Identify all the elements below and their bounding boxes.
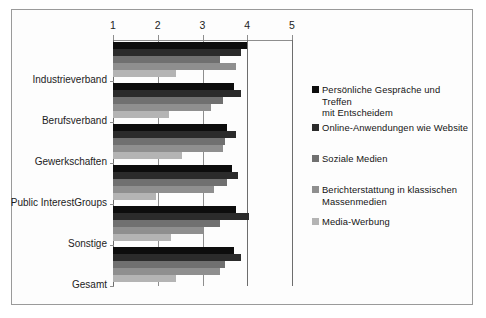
y-axis-tick-mark (110, 245, 114, 246)
bars-and-gridlines (113, 40, 292, 286)
bar (113, 247, 234, 254)
bar-group (113, 83, 292, 118)
y-axis-tick-mark (110, 122, 114, 123)
bar (113, 234, 171, 241)
legend-label: Online-Anwendungen wie Website (322, 122, 468, 134)
plot-area: 12345 (113, 19, 303, 286)
bar (113, 83, 234, 90)
x-axis-tick-label-4: 4 (244, 19, 250, 31)
y-axis-category-label: Industrieverband (33, 74, 108, 85)
bar (113, 63, 236, 70)
bar (113, 220, 220, 227)
bar (113, 56, 220, 63)
bar-group (113, 124, 292, 159)
bar (113, 165, 232, 172)
bar (113, 275, 176, 282)
y-axis-tick-mark (110, 204, 114, 205)
bar (113, 206, 236, 213)
legend-label: Soziale Medien (322, 153, 388, 165)
gridline-5 (292, 40, 293, 286)
legend-item[interactable]: Online-Anwendungen wie Website (312, 122, 468, 134)
legend-label: Persönliche Gespräche und Treffen mit En… (322, 84, 472, 119)
y-axis-category-label: Public InterestGroups (11, 197, 107, 208)
bar-group (113, 206, 292, 241)
bar (113, 138, 225, 145)
y-axis-category-label: Sonstige (68, 238, 107, 249)
x-axis-tick-label-1: 1 (110, 19, 116, 31)
y-axis-tick-mark (110, 286, 114, 287)
legend-label: Berichterstattung in klassischen Massenm… (322, 184, 457, 207)
legend-swatch-icon (312, 155, 319, 162)
bar-group (113, 247, 292, 282)
bar (113, 172, 238, 179)
bar (113, 186, 214, 193)
y-axis-category-label: Gesamt (72, 279, 107, 290)
bar (113, 70, 176, 77)
x-axis-tick-label-3: 3 (200, 19, 206, 31)
bar (113, 268, 220, 275)
legend-label: Media-Werbung (322, 216, 390, 228)
x-axis-tick-label-5: 5 (289, 19, 295, 31)
bar (113, 193, 156, 200)
bar (113, 49, 241, 56)
y-axis-category-label: Berufsverband (42, 115, 107, 126)
legend-item[interactable]: Persönliche Gespräche und Treffen mit En… (312, 84, 472, 119)
bar (113, 90, 241, 97)
bar (113, 152, 182, 159)
bar (113, 42, 247, 49)
legend-swatch-icon (312, 218, 319, 225)
legend-item[interactable]: Media-Werbung (312, 216, 390, 228)
chart-frame: 12345 IndustrieverbandBerufsverbandGewer… (11, 9, 473, 305)
y-axis-tick-mark (110, 81, 114, 82)
y-axis-tick-mark (110, 163, 114, 164)
bar-group (113, 165, 292, 200)
legend-swatch-icon (312, 186, 319, 193)
bar (113, 104, 211, 111)
bar (113, 145, 223, 152)
bar (113, 97, 223, 104)
y-axis-category-label: Gewerkschaften (35, 156, 107, 167)
legend-item[interactable]: Soziale Medien (312, 153, 388, 165)
bar (113, 179, 227, 186)
bar (113, 124, 227, 131)
bar (113, 213, 249, 220)
bar (113, 254, 241, 261)
legend-swatch-icon (312, 124, 319, 131)
bar (113, 227, 203, 234)
bar-group (113, 42, 292, 77)
x-axis-tick-label-2: 2 (155, 19, 161, 31)
legend-swatch-icon (312, 86, 319, 93)
bar (113, 261, 225, 268)
bar (113, 131, 236, 138)
legend-item[interactable]: Berichterstattung in klassischen Massenm… (312, 184, 457, 207)
bar (113, 111, 169, 118)
